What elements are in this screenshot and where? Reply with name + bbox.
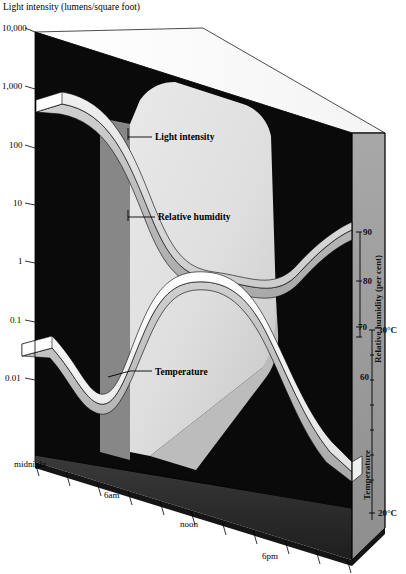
chart-svg: 10,000 1,000 100 10 1 0.1 0.01 Light int… [0, 0, 406, 574]
left-axis-tick-1000: 1,000 [2, 81, 23, 91]
humidity-tick-90: 90 [363, 227, 373, 237]
temperature-tick-20c: 20°C [378, 508, 397, 518]
temperature-tick-30c: 30°C [378, 325, 397, 335]
callout-label-humidity: Relative humidity [158, 212, 231, 222]
left-axis-tick-0.1: 0.1 [10, 315, 21, 325]
humidity-tick-80: 80 [363, 276, 373, 286]
bottom-axis-tick-midnight: midnight [14, 459, 47, 469]
callout-label-light: Light intensity [155, 132, 215, 142]
temperature-axis-title: Temperature [362, 450, 372, 500]
figure-container: 10,000 1,000 100 10 1 0.1 0.01 Light int… [0, 0, 406, 574]
humidity-axis-title: Relative humidity (per cent) [373, 255, 383, 363]
left-axis-tick-1: 1 [18, 256, 23, 266]
bottom-axis-tick-6pm: 6pm [262, 551, 278, 561]
left-axis-tick-10: 10 [13, 198, 23, 208]
left-axis-tick-10000: 10,000 [2, 23, 27, 33]
humidity-tick-70: 70 [358, 322, 368, 332]
callout-label-temperature: Temperature [155, 367, 208, 377]
left-axis: 10,000 1,000 100 10 1 0.1 0.01 [2, 23, 35, 383]
bottom-axis-tick-noon: noon [180, 519, 199, 529]
left-axis-tick-100: 100 [9, 140, 23, 150]
bottom-axis-tick-6am: 6am [104, 490, 120, 500]
page-title: Light intensity (lumens/square foot) [3, 2, 140, 13]
humidity-tick-60: 60 [360, 372, 370, 382]
left-axis-ticks [25, 28, 35, 380]
left-axis-tick-0.01: 0.01 [5, 373, 21, 383]
